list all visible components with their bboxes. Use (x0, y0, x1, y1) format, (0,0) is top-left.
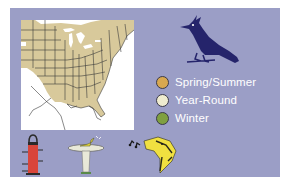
legend-item-winter: Winter (156, 109, 256, 127)
legend-label: Year-Round (175, 94, 237, 106)
range-map (21, 20, 134, 130)
bird-feeder-icon (22, 134, 44, 176)
legend-label: Winter (175, 112, 209, 124)
legend-item-year-round: Year-Round (156, 91, 256, 109)
season-legend: Spring/Summer Year-Round Winter (156, 73, 256, 127)
legend-item-spring-summer: Spring/Summer (156, 73, 256, 91)
blue-jay-silhouette-icon (175, 15, 245, 70)
winter-swatch-icon (156, 112, 169, 125)
bird-bath-icon (66, 136, 108, 176)
bird-song-icon (128, 135, 182, 175)
range-map-graphic (21, 20, 134, 130)
legend-label: Spring/Summer (175, 76, 256, 88)
year-round-swatch-icon (156, 94, 169, 107)
spring-summer-swatch-icon (156, 76, 169, 89)
